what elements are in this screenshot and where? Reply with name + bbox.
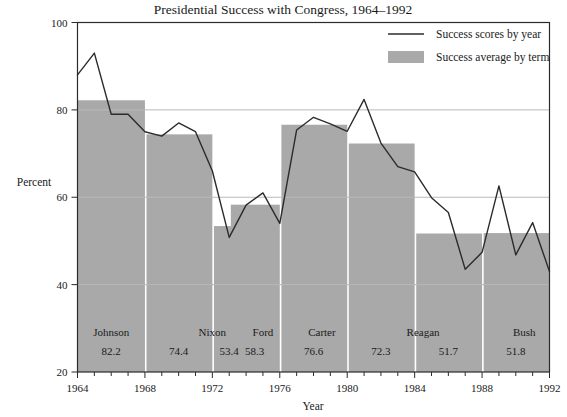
term-average-label: 51.8 — [506, 345, 526, 357]
x-axis-title: Year — [302, 400, 323, 412]
y-axis-tick-label: 40 — [57, 279, 69, 291]
term-average-label: 74.4 — [169, 345, 189, 357]
president-name-label: Johnson — [93, 326, 130, 338]
president-name-label: Bush — [513, 326, 536, 338]
presidential-success-chart: Presidential Success with Congress, 1964… — [0, 0, 567, 417]
legend-entry-label: Success scores by year — [436, 28, 541, 41]
term-average-label: 76.6 — [304, 345, 324, 357]
term-average-label: 82.2 — [102, 345, 121, 357]
x-axis-tick-label: 1992 — [539, 382, 561, 394]
x-axis-tick-label: 1968 — [134, 382, 157, 394]
x-axis-tick-label: 1972 — [201, 382, 223, 394]
y-axis-tick-label: 80 — [57, 104, 69, 116]
x-axis-tick-label: 1984 — [404, 382, 427, 394]
x-axis-tick-label: 1976 — [269, 382, 292, 394]
y-axis-tick-label: 100 — [51, 17, 68, 29]
term-average-label: 53.4 — [220, 345, 240, 357]
term-average-label: 51.7 — [439, 345, 459, 357]
chart-container: Presidential Success with Congress, 1964… — [0, 0, 567, 417]
chart-title: Presidential Success with Congress, 1964… — [154, 2, 412, 17]
legend-entry-label: Success average by term — [436, 51, 549, 64]
president-name-label: Reagan — [407, 326, 440, 338]
y-axis-tick-label: 60 — [57, 191, 69, 203]
term-average-bar — [349, 144, 415, 372]
y-axis-title: Percent — [17, 176, 52, 188]
x-axis-tick-label: 1964 — [67, 382, 90, 394]
x-axis-tick-label: 1988 — [471, 382, 494, 394]
president-name-label: Ford — [253, 326, 274, 338]
president-name-label: Carter — [308, 326, 336, 338]
legend-color-swatch — [388, 51, 424, 63]
y-axis-tick-label: 20 — [57, 366, 69, 378]
president-name-label: Nixon — [199, 326, 227, 338]
term-average-label: 58.3 — [245, 345, 265, 357]
term-average-label: 72.3 — [371, 345, 391, 357]
x-axis-tick-label: 1980 — [336, 382, 359, 394]
